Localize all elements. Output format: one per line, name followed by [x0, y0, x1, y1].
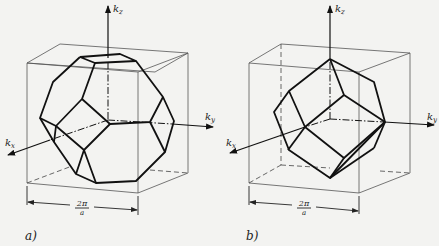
brillouin-zone-figure: kz ky kx 2π a a) — [0, 0, 439, 246]
dimension-a: 2π a — [27, 186, 138, 217]
caption-b: b) — [246, 229, 259, 243]
kz-label-b: kz — [335, 3, 345, 16]
ky-label-b: ky — [427, 111, 438, 124]
dimension-numerator-b: 2π — [298, 199, 310, 208]
truncated-octahedron — [40, 54, 174, 183]
axes-a — [8, 6, 213, 155]
dimension-numerator-a: 2π — [76, 199, 88, 208]
ky-label-a: ky — [205, 111, 216, 124]
caption-a: a) — [25, 229, 37, 243]
kx-label-a: kx — [5, 137, 15, 150]
axes-b — [230, 6, 434, 153]
kx-label-b: kx — [226, 137, 236, 150]
panel-b: kz ky kx 2π a b) — [226, 3, 438, 243]
kz-label-a: kz — [113, 3, 123, 16]
dimension-denominator-a: a — [80, 209, 84, 217]
dimension-b: 2π a — [249, 186, 359, 217]
dimension-denominator-b: a — [302, 209, 306, 217]
panel-a: kz ky kx 2π a a) — [5, 3, 216, 243]
